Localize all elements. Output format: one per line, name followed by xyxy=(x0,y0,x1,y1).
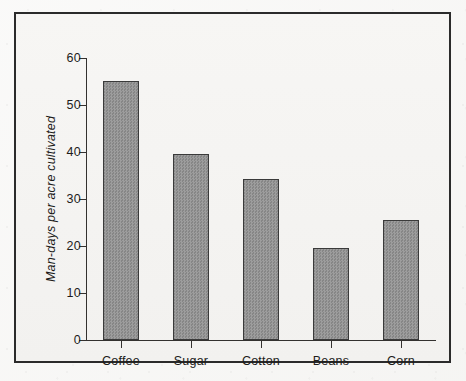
bar xyxy=(103,81,139,340)
y-tick-label: 30 xyxy=(66,192,81,206)
bar xyxy=(173,154,209,340)
y-tick-label: 20 xyxy=(66,239,81,253)
plot-area: 0102030405060 CoffeeSugarCottonBeansCorn xyxy=(86,58,436,340)
y-tick-label: 0 xyxy=(74,333,81,347)
x-tick-label: Corn xyxy=(366,354,436,368)
x-tick-label: Beans xyxy=(296,354,366,368)
y-axis-line xyxy=(86,58,87,340)
y-axis-title-label: Man-days per acre cultivated xyxy=(44,116,58,282)
x-tick-mark xyxy=(191,340,192,348)
x-tick-mark xyxy=(121,340,122,348)
y-tick-label: 60 xyxy=(66,51,81,65)
x-tick-label: Cotton xyxy=(226,354,296,368)
x-tick-label: Coffee xyxy=(86,354,156,368)
y-tick-label: 50 xyxy=(66,98,81,112)
chart-frame: Man-days per acre cultivated 01020304050… xyxy=(14,12,451,363)
x-tick-label: Sugar xyxy=(156,354,226,368)
y-tick-label: 40 xyxy=(66,145,81,159)
chart-figure: Man-days per acre cultivated 01020304050… xyxy=(0,0,466,381)
y-axis-title: Man-days per acre cultivated xyxy=(42,58,60,340)
x-tick-mark xyxy=(331,340,332,348)
x-tick-mark xyxy=(401,340,402,348)
bar xyxy=(243,179,279,340)
bar xyxy=(313,248,349,340)
y-tick-label: 10 xyxy=(66,286,81,300)
x-tick-mark xyxy=(261,340,262,348)
bar xyxy=(383,220,419,340)
